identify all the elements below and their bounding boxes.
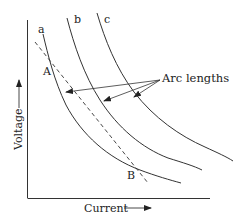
dashed-load-line	[35, 42, 148, 183]
curve-c	[97, 13, 233, 161]
diagram-canvas	[0, 0, 242, 220]
point-b-label: B	[127, 170, 135, 181]
curve-c-label: c	[104, 14, 110, 25]
arc-lengths-annotation: Arc lengths	[162, 73, 229, 85]
arc-characteristics-diagram: a b c A B Arc lengths Current Voltage	[0, 0, 242, 220]
y-axis-label: Voltage	[13, 108, 24, 150]
point-a-label: A	[43, 66, 51, 77]
x-axis-label: Current	[84, 203, 128, 214]
curve-b	[67, 18, 202, 170]
curve-b-label: b	[74, 14, 81, 25]
arc-length-arrow-2	[104, 80, 160, 101]
curve-a	[43, 34, 181, 183]
curve-a-label: a	[38, 24, 45, 35]
arc-length-arrow-1	[66, 80, 160, 92]
